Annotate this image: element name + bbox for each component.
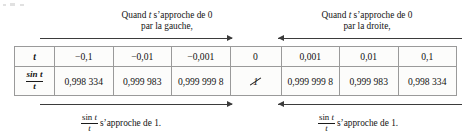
- row-header-t: t: [15, 47, 55, 67]
- caption-text: s’approche de 0: [351, 10, 412, 20]
- cell-ratio-0: 0,998 334: [55, 67, 114, 96]
- scan-artifact: [3, 4, 6, 6]
- scan-artifact: [20, 4, 24, 6]
- undefined-value-mark: 1: [251, 76, 260, 87]
- fraction-denominator: t: [81, 124, 98, 134]
- table-row-ratio: sin t t 0,998 334 0,999 983 0,999 999 8 …: [15, 67, 457, 96]
- fraction-denominator: t: [26, 82, 44, 92]
- limit-table-figure: Quand t s’approche de 0 par la gauche, Q…: [0, 0, 470, 136]
- fraction-numerator: sin t: [318, 113, 335, 124]
- caption-text: Quand: [122, 10, 149, 20]
- fraction-sin-t-over-t: sin t t: [26, 70, 44, 91]
- fraction-numerator: sin t: [81, 113, 98, 124]
- scan-artifact: [10, 3, 15, 6]
- cell-t-2: −0,001: [172, 47, 231, 67]
- top-right-caption-line1: Quand t s’approche de 0: [272, 10, 462, 21]
- cell-t-4: 0,001: [281, 47, 340, 67]
- sin-label: sin: [319, 112, 331, 122]
- variable-t: t: [94, 112, 96, 122]
- cell-ratio-4: 0,999 999 8: [281, 67, 340, 96]
- top-left-caption: Quand t s’approche de 0 par la gauche,: [72, 10, 262, 33]
- caption-text: s’approche de 0: [151, 10, 212, 20]
- cell-t-5: 0,01: [340, 47, 399, 67]
- bottom-left-conclusion: sin t t s’approche de 1.: [81, 113, 161, 133]
- caption-text: Quand: [322, 10, 349, 20]
- cell-t-1: −0,01: [113, 47, 172, 67]
- fraction-numerator: sin t: [26, 70, 44, 81]
- cell-t-0: −0,1: [55, 47, 114, 67]
- values-table: t −0,1 −0,01 −0,001 0 0,001 0,01 0,1 sin…: [14, 46, 457, 96]
- cell-ratio-1: 0,999 983: [113, 67, 172, 96]
- top-right-arrow-left: [278, 38, 462, 39]
- bottom-left-arrow-right: [40, 104, 232, 105]
- cell-t-6: 0,1: [398, 47, 457, 67]
- cell-ratio-5: 0,999 983: [340, 67, 399, 96]
- top-right-caption: Quand t s’approche de 0 par la droite,: [272, 10, 462, 33]
- sin-label: sin: [82, 112, 94, 122]
- cell-ratio-2: 0,999 999 8: [172, 67, 231, 96]
- fraction-sin-t-over-t: sin t t: [81, 113, 98, 133]
- row-header-ratio: sin t t: [15, 67, 55, 96]
- variable-t: t: [331, 112, 333, 122]
- cell-ratio-undefined: 1: [230, 67, 281, 96]
- cell-t-3: 0: [230, 47, 281, 67]
- bottom-right-conclusion-text: s’approche de 1.: [337, 118, 398, 128]
- top-left-arrow-right: [40, 38, 232, 39]
- fraction-denominator: t: [318, 124, 335, 134]
- fraction-sin-t-over-t: sin t t: [318, 113, 335, 133]
- bottom-left-conclusion-text: s’approche de 1.: [100, 118, 161, 128]
- bottom-right-conclusion: sin t t s’approche de 1.: [318, 113, 398, 133]
- variable-t: t: [33, 51, 36, 62]
- bottom-right-arrow-left: [278, 104, 462, 105]
- top-right-caption-line2: par la droite,: [272, 21, 462, 32]
- top-left-caption-line2: par la gauche,: [72, 21, 262, 32]
- sin-label: sin: [27, 69, 40, 79]
- table-row-t: t −0,1 −0,01 −0,001 0 0,001 0,01 0,1: [15, 47, 457, 67]
- top-left-caption-line1: Quand t s’approche de 0: [72, 10, 262, 21]
- cell-ratio-6: 0,998 334: [398, 67, 457, 96]
- variable-t: t: [40, 69, 43, 79]
